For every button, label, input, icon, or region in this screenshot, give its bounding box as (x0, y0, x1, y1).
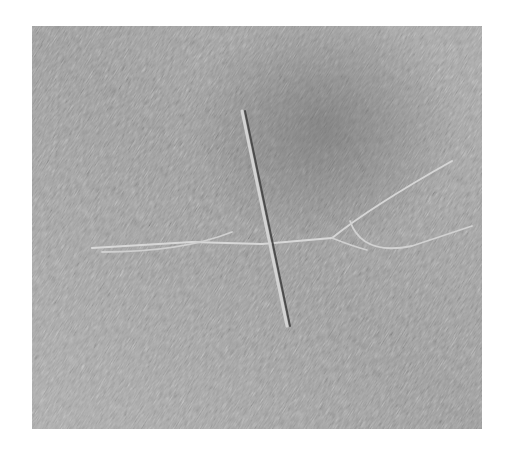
stone-surface (32, 26, 482, 429)
carving-photograph (32, 26, 482, 429)
